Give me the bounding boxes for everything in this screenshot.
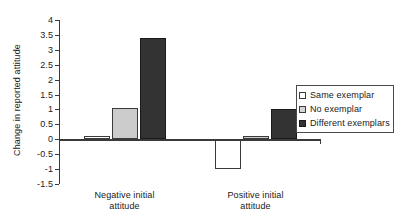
y-tick-label: 3 bbox=[48, 45, 53, 55]
bar bbox=[215, 139, 241, 169]
legend-item: Same exemplar bbox=[299, 88, 390, 102]
zero-baseline bbox=[59, 139, 321, 140]
plot-area: 43.532.521.510.50-0.5-1-1.5 bbox=[59, 20, 321, 184]
legend-swatch-icon bbox=[299, 92, 306, 99]
y-tick bbox=[55, 20, 59, 21]
y-tick bbox=[55, 184, 59, 185]
legend-label: Different exemplars bbox=[310, 118, 390, 128]
legend-item: No exemplar bbox=[299, 102, 390, 116]
y-tick bbox=[55, 50, 59, 51]
legend-item: Different exemplars bbox=[299, 116, 390, 130]
category-label: Negative initial attitude bbox=[65, 190, 185, 212]
y-tick-label: -1 bbox=[45, 164, 53, 174]
legend-swatch-icon bbox=[299, 106, 306, 113]
legend-label: No exemplar bbox=[310, 104, 362, 114]
y-tick bbox=[55, 35, 59, 36]
y-tick-label: 1 bbox=[48, 104, 53, 114]
category-label: Positive initial attitude bbox=[196, 190, 316, 212]
y-tick bbox=[55, 109, 59, 110]
legend-swatch-icon bbox=[299, 120, 306, 127]
y-tick-label: 2 bbox=[48, 75, 53, 85]
y-tick bbox=[55, 95, 59, 96]
x-axis-end-tick bbox=[320, 139, 321, 144]
y-tick-label: 0 bbox=[48, 134, 53, 144]
y-tick-label: 1.5 bbox=[40, 90, 53, 100]
y-axis-title: Change in reported attitude bbox=[12, 20, 22, 180]
y-tick-label: -0.5 bbox=[37, 149, 53, 159]
y-tick-label: 0.5 bbox=[40, 119, 53, 129]
y-tick-label: 2.5 bbox=[40, 60, 53, 70]
bar bbox=[112, 108, 138, 139]
bar-chart: Change in reported attitude 43.532.521.5… bbox=[0, 0, 419, 223]
bar bbox=[271, 109, 297, 139]
y-tick-label: -1.5 bbox=[37, 179, 53, 189]
y-tick bbox=[55, 80, 59, 81]
bar bbox=[140, 38, 166, 139]
chart-legend: Same exemplarNo exemplarDifferent exempl… bbox=[296, 85, 394, 133]
legend-label: Same exemplar bbox=[310, 90, 374, 100]
y-tick bbox=[55, 124, 59, 125]
y-tick bbox=[55, 65, 59, 66]
y-tick bbox=[55, 154, 59, 155]
y-tick bbox=[55, 169, 59, 170]
y-axis-line bbox=[59, 20, 60, 184]
y-tick-label: 4 bbox=[48, 15, 53, 25]
y-tick-label: 3.5 bbox=[40, 30, 53, 40]
